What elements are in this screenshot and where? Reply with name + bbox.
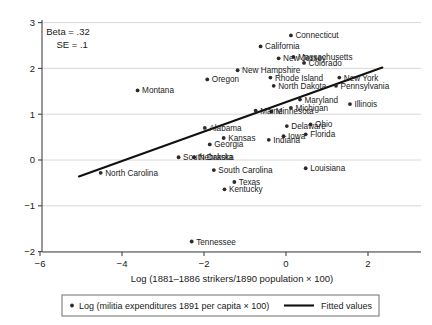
data-point-marker xyxy=(203,126,207,130)
data-point-label: Tennessee xyxy=(196,238,236,247)
data-point-marker xyxy=(334,84,338,88)
data-point-label: Montana xyxy=(142,86,174,95)
data-point-label: Connecticut xyxy=(295,31,339,40)
data-point-label: South Carolina xyxy=(218,166,273,175)
data-point-marker xyxy=(223,187,227,191)
data-point-marker xyxy=(232,180,236,184)
x-tick-label: 0 xyxy=(283,258,288,269)
data-point-marker xyxy=(212,168,216,172)
x-tick-label: −6 xyxy=(35,258,46,269)
data-point-marker xyxy=(205,77,209,81)
x-tick-label: −4 xyxy=(117,258,128,269)
data-point-label: Pennsylvania xyxy=(341,82,390,91)
data-point-marker xyxy=(285,124,289,128)
legend-label-fit[interactable]: Fitted values xyxy=(321,301,373,311)
y-tick-label: −1 xyxy=(24,200,35,211)
data-point-marker xyxy=(259,45,263,49)
data-point-marker xyxy=(254,109,258,113)
data-point-label: Indiana xyxy=(273,136,300,145)
data-point-marker xyxy=(136,88,140,92)
data-point-label: Georgia xyxy=(214,140,244,149)
y-tick-label: −2 xyxy=(24,246,35,257)
data-point-label: Illinois xyxy=(354,100,377,109)
x-tick-label: 2 xyxy=(365,258,370,269)
annotation-se: SE = .1 xyxy=(56,39,87,50)
scatter-plot: ConnecticutCaliforniaNew JerseyMassachus… xyxy=(0,0,432,325)
data-point-label: Louisiana xyxy=(310,164,345,173)
data-point-marker xyxy=(304,166,308,170)
data-point-label: North Dakota xyxy=(278,82,327,91)
x-tick-label: −2 xyxy=(199,258,210,269)
data-point-label: California xyxy=(265,42,300,51)
x-axis-title-text: Log (1881–1886 strikers/1890 population … xyxy=(131,273,334,284)
legend-dot-icon xyxy=(70,304,74,308)
annotation-beta: Beta = .32 xyxy=(46,26,90,37)
data-point-label: Minnesota xyxy=(276,107,314,116)
data-point-marker xyxy=(267,138,271,142)
data-point-label: Alabama xyxy=(209,124,242,133)
y-tick-label: 1 xyxy=(30,109,35,120)
data-point-marker xyxy=(190,240,194,244)
data-point-marker xyxy=(298,98,302,102)
y-tick-label: 0 xyxy=(30,154,35,165)
data-point-marker xyxy=(348,102,352,106)
data-point-marker xyxy=(289,34,293,38)
data-point-label: Nebraska xyxy=(199,153,234,162)
data-point-label: North Carolina xyxy=(105,169,158,178)
data-point-label: Colorado xyxy=(309,59,343,68)
data-point-label: Ohio xyxy=(315,120,333,129)
y-tick-label: 2 xyxy=(30,63,35,74)
data-point-marker xyxy=(236,68,240,72)
data-point-marker xyxy=(177,155,181,159)
y-tick-label: 3 xyxy=(30,17,35,28)
legend-label-points[interactable]: Log (militia expenditures 1891 per capit… xyxy=(79,301,269,311)
data-point-marker xyxy=(208,143,212,147)
x-axis-title: Log (1881–1886 strikers/1890 population … xyxy=(131,273,334,284)
data-point-marker xyxy=(99,171,103,175)
data-point-label: Oregon xyxy=(212,75,240,84)
data-point-marker xyxy=(337,76,341,80)
data-point-marker xyxy=(272,84,276,88)
data-point-marker xyxy=(222,136,226,140)
data-point-marker xyxy=(269,76,273,80)
data-point-marker xyxy=(277,56,281,60)
data-point-label: Kentucky xyxy=(229,185,264,194)
legend[interactable]: Log (militia expenditures 1891 per capit… xyxy=(62,295,379,316)
data-point-label: Florida xyxy=(310,130,335,139)
